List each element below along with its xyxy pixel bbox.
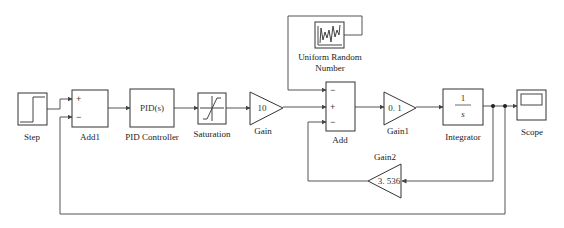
gain2-value: 3. 536 — [378, 176, 401, 186]
scope-block[interactable]: Scope — [517, 90, 546, 137]
wire-step-add1 — [47, 99, 72, 109]
gain2-label: Gain2 — [374, 152, 396, 162]
add-sign-plus: + — [330, 102, 335, 112]
random-label-line1: Uniform Random — [298, 52, 362, 62]
add-block[interactable]: − + − Add — [326, 82, 355, 145]
add-label: Add — [332, 135, 348, 145]
scope-label: Scope — [521, 127, 543, 137]
gain1-label: Gain1 — [387, 126, 409, 136]
gain-label: Gain — [254, 126, 272, 136]
add1-sign-minus: − — [76, 112, 81, 122]
add1-sign-plus: + — [76, 94, 81, 104]
gain2-block[interactable]: 3. 536 Gain2 — [368, 152, 401, 198]
saturation-block[interactable]: Saturation — [194, 93, 231, 139]
add-sign-minus-bottom: − — [330, 117, 335, 127]
step-block[interactable]: Step — [18, 93, 47, 142]
gain-block[interactable]: 10 Gain — [250, 92, 283, 136]
step-label: Step — [24, 132, 41, 142]
integrator-label: Integrator — [445, 132, 480, 142]
gain1-value: 0. 1 — [388, 103, 402, 113]
pid-label: PID Controller — [125, 132, 179, 142]
integrator-numerator: 1 — [461, 93, 466, 103]
junction-dot — [491, 104, 495, 108]
saturation-label: Saturation — [194, 129, 231, 139]
junction-dot — [503, 104, 507, 108]
add1-block[interactable]: + − Add1 — [72, 90, 108, 142]
gain-value: 10 — [258, 103, 268, 113]
add-sign-minus-top: − — [330, 85, 335, 95]
integrator-block[interactable]: 1 s Integrator — [443, 89, 483, 142]
random-label-line2: Number — [315, 63, 345, 73]
add1-label: Add1 — [80, 132, 100, 142]
uniform-random-number-block[interactable]: Uniform Random Number — [298, 22, 362, 73]
integrator-denominator: s — [461, 109, 465, 119]
pid-controller-block[interactable]: PID(s) PID Controller — [125, 89, 179, 142]
pid-content: PID(s) — [140, 103, 164, 113]
gain1-block[interactable]: 0. 1 Gain1 — [384, 92, 416, 136]
wire-integrator-add1 — [60, 106, 505, 214]
block-diagram-canvas: Step + − Add1 PID(s) PID Controller Satu… — [0, 0, 564, 228]
